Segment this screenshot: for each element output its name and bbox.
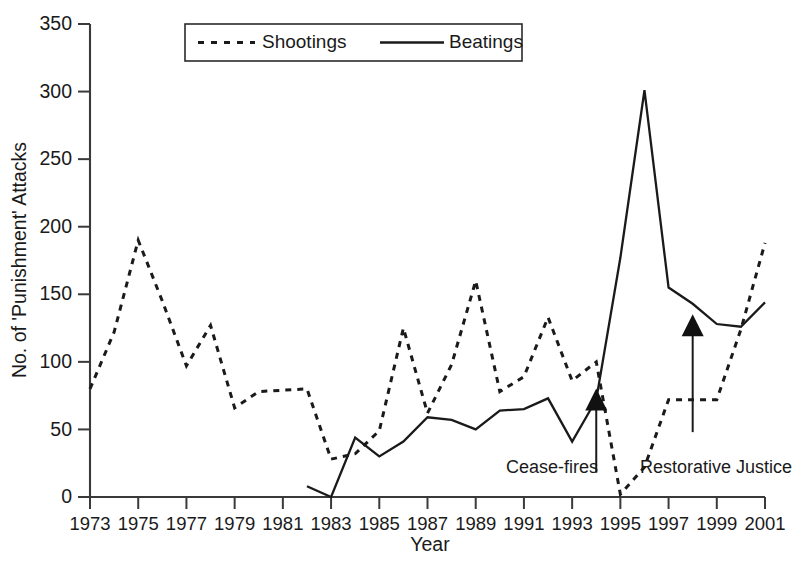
y-tick-label: 50 [50,418,72,440]
annotation-label: Restorative Justice [640,457,792,477]
legend-label-shootings: Shootings [262,31,347,52]
x-tick-label: 2001 [744,513,785,534]
x-tick-label: 1989 [455,513,496,534]
x-tick-label: 1981 [262,513,303,534]
x-tick-label: 1997 [648,513,689,534]
x-tick-label: 1983 [310,513,351,534]
x-tick-group: 1973197519771979198119831985198719891991… [69,497,785,534]
x-tick-label: 1993 [552,513,593,534]
y-tick-label: 0 [61,485,72,507]
x-tick-label: 1977 [166,513,207,534]
y-axis-title: No. of 'Punishment' Attacks [8,142,30,378]
x-axis: 1973197519771979198119831985198719891991… [69,497,785,555]
punishment-attacks-chart: 050100150200250300350 No. of 'Punishment… [0,0,801,581]
y-tick-label: 300 [39,80,72,102]
y-tick-group: 050100150200250300350 [39,12,90,507]
y-tick-label: 100 [39,350,72,372]
y-tick-label: 350 [39,12,72,34]
x-tick-label: 1991 [503,513,544,534]
y-tick-label: 200 [39,215,72,237]
legend-label-beatings: Beatings [449,31,523,52]
annotation-label: Cease-fires [506,457,598,477]
x-tick-label: 1999 [696,513,737,534]
x-tick-label: 1995 [600,513,641,534]
y-tick-label: 150 [39,282,72,304]
series-group [90,90,765,497]
chart-canvas: 050100150200250300350 No. of 'Punishment… [0,0,801,581]
chart-legend: Shootings Beatings [185,24,523,61]
annotation-arrow-head [682,314,704,336]
x-axis-title: Year [410,533,450,555]
x-tick-label: 1973 [69,513,110,534]
y-tick-label: 250 [39,147,72,169]
x-tick-label: 1975 [118,513,159,534]
x-tick-label: 1985 [359,513,400,534]
x-tick-label: 1987 [407,513,448,534]
y-axis: 050100150200250300350 No. of 'Punishment… [8,12,90,507]
x-tick-label: 1979 [214,513,255,534]
annotation-group: Cease-firesRestorative Justice [506,314,792,477]
